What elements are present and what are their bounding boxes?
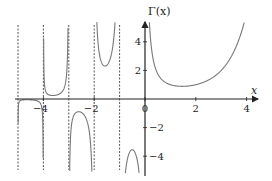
- gamma-function-plot: −4−2024 42−2−4 x Γ(x): [0, 0, 272, 181]
- asymptote-lines: [18, 25, 120, 170]
- y-tick-label: 4: [135, 36, 141, 47]
- y-tick-label: −4: [149, 151, 164, 162]
- gamma-curve-branch: [97, 22, 115, 66]
- gamma-curves: [18, 22, 244, 173]
- y-axis-label: Γ(x): [148, 5, 170, 18]
- gamma-curve-branch: [44, 28, 68, 96]
- x-tick-label: 0: [142, 103, 148, 114]
- x-tick-label: −2: [84, 103, 99, 114]
- gamma-curve-branch: [149, 22, 244, 86]
- gamma-curve-branch: [70, 112, 92, 172]
- y-tick-label: 2: [135, 65, 141, 76]
- y-tick-label: −2: [149, 122, 164, 133]
- x-tick-label: −4: [33, 103, 48, 114]
- x-axis-label: x: [251, 84, 258, 97]
- x-tick-label: 4: [243, 103, 249, 114]
- x-tick-label: 2: [193, 103, 199, 114]
- gamma-curve-branch: [125, 150, 139, 173]
